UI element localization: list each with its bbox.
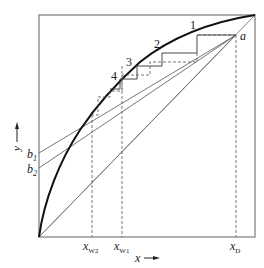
b2-label: b2: [27, 162, 37, 178]
xw2-label: xW2: [82, 239, 99, 255]
stage-label-1: 1: [190, 18, 196, 32]
stage-label-3: 3: [126, 55, 132, 69]
x-arrow-icon: [153, 256, 160, 260]
y-axis-label: y: [10, 122, 22, 152]
stage-label-4: 4: [111, 69, 117, 83]
mccabe-thiele-diagram: 1 2 3 4 a b1 b2 y xW2 xW1 xD x: [0, 0, 264, 268]
xw1-label: xW1: [113, 239, 130, 255]
y-arrow-icon: [15, 122, 19, 129]
x-axis-label: x: [134, 251, 160, 265]
xd-label: xD: [229, 239, 240, 255]
svg-text:y: y: [10, 146, 22, 152]
stage-label-2: 2: [154, 37, 160, 51]
point-a-label: a: [240, 29, 246, 43]
b1-label: b1: [27, 147, 37, 163]
svg-text:x: x: [134, 251, 141, 265]
